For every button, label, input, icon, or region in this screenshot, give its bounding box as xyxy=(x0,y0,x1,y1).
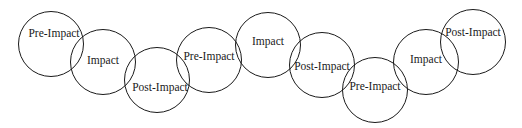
circle-post-impact-3 xyxy=(440,9,506,75)
label-post-impact-3: Post-Impact xyxy=(445,27,501,39)
label-impact-3: Impact xyxy=(410,54,442,66)
impact-cycle-diagram: Pre-Impact Impact Post-Impact Pre-Impact… xyxy=(0,0,522,128)
label-pre-impact-3: Pre-Impact xyxy=(349,81,400,93)
label-pre-impact-1: Pre-Impact xyxy=(28,28,79,40)
label-impact-2: Impact xyxy=(252,36,284,48)
label-post-impact-2: Post-Impact xyxy=(294,61,350,73)
label-pre-impact-2: Pre-Impact xyxy=(183,51,234,63)
label-impact-1: Impact xyxy=(87,55,119,67)
label-post-impact-1: Post-Impact xyxy=(132,82,188,94)
